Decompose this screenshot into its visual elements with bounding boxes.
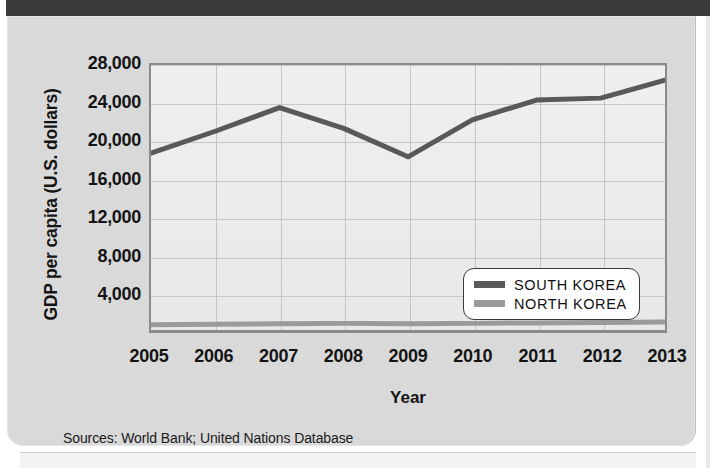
x-axis-title: Year xyxy=(149,388,667,408)
series-line-north-korea xyxy=(151,322,665,325)
y-tick-label: 4,000 xyxy=(97,284,141,305)
x-tick-label: 2007 xyxy=(259,346,298,367)
y-tick-label: 8,000 xyxy=(97,245,141,266)
y-tick-label: 20,000 xyxy=(88,130,141,151)
x-tick-label: 2010 xyxy=(453,346,492,367)
y-tick-label: 16,000 xyxy=(88,168,141,189)
figure-card: GDP per capita (U.S. dollars) 28,00024,0… xyxy=(7,16,696,446)
legend-swatch-north-korea xyxy=(474,300,505,307)
chart-screenshot: GDP per capita (U.S. dollars) 28,00024,0… xyxy=(0,0,710,468)
page-right-margin xyxy=(704,0,710,468)
source-note: Sources: World Bank; United Nations Data… xyxy=(63,430,353,446)
page-header-bar xyxy=(6,0,710,16)
x-tick-label: 2008 xyxy=(324,346,363,367)
page-bottom-edge xyxy=(20,452,696,468)
y-tick-label: 28,000 xyxy=(88,53,141,74)
x-tick-label: 2011 xyxy=(519,346,557,367)
legend-label-south-korea: SOUTH KOREA xyxy=(514,277,626,293)
x-tick-label: 2009 xyxy=(389,346,428,367)
x-axis-tick-labels: 200520062007200820092010201120122013 xyxy=(149,346,667,376)
legend-label-north-korea: NORTH KOREA xyxy=(514,296,627,312)
x-tick-label: 2005 xyxy=(130,346,169,367)
y-tick-label: 12,000 xyxy=(88,207,141,228)
y-axis-tick-labels: 28,00024,00020,00016,00012,0008,0004,000 xyxy=(55,56,141,342)
x-tick-label: 2012 xyxy=(583,346,622,367)
legend-item-north-korea: NORTH KOREA xyxy=(474,294,627,313)
page-left-margin xyxy=(0,14,7,468)
legend-item-south-korea: SOUTH KOREA xyxy=(474,275,627,294)
y-tick-label: 24,000 xyxy=(88,91,141,112)
x-tick-label: 2013 xyxy=(648,346,687,367)
legend-swatch-south-korea xyxy=(474,281,505,288)
chart-legend: SOUTH KOREA NORTH KOREA xyxy=(463,268,640,320)
x-tick-label: 2006 xyxy=(194,346,233,367)
series-line-south-korea xyxy=(151,80,665,157)
